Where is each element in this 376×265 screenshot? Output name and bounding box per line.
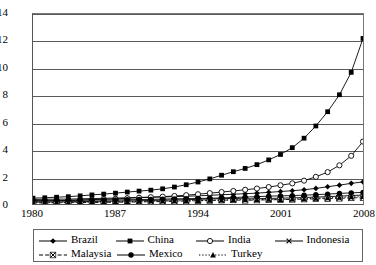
x-tick-label: 1987: [95, 207, 135, 219]
legend-label: China: [145, 233, 174, 245]
legend-label: Indonesia: [304, 233, 350, 245]
legend-item-indonesia[interactable]: Indonesia: [274, 232, 358, 246]
x-tick-label: 1980: [12, 207, 52, 219]
legend-marker-circle-icon: [116, 247, 146, 259]
x-tick-label: 1994: [178, 207, 218, 219]
y-tick-label: 8: [0, 89, 8, 100]
x-tick-label: 2001: [261, 207, 301, 219]
legend-row: BrazilChinaIndiaIndonesia: [38, 232, 358, 246]
legend-item-mexico[interactable]: Mexico: [116, 246, 198, 260]
legend-marker-triangle-icon: [198, 247, 228, 259]
y-tick-label: 2: [0, 172, 8, 183]
legend-label: Brazil: [68, 233, 98, 245]
x-tick-label: 2008: [344, 207, 376, 219]
legend-marker-square-icon: [115, 233, 145, 245]
y-tick-label: 10: [0, 62, 8, 73]
legend-marker-cross-icon: [274, 233, 304, 245]
legend-marker-diamond-icon: [38, 233, 68, 245]
y-tick-label: 6: [0, 117, 8, 128]
chart-figure: 02468101214 19801987199420012008 BrazilC…: [0, 0, 376, 265]
legend-label: India: [225, 233, 251, 245]
y-tick-label: 4: [0, 144, 8, 155]
legend-item-malaysia[interactable]: Malaysia: [38, 246, 116, 260]
legend-item-turkey[interactable]: Turkey: [198, 246, 278, 260]
chart-legend: BrazilChinaIndiaIndonesia MalaysiaMexico…: [33, 229, 363, 262]
legend-label: Mexico: [146, 247, 183, 259]
y-tick-label: 0: [0, 199, 8, 210]
y-tick-label: 14: [0, 7, 8, 18]
series-line-china: [33, 38, 363, 198]
plot-area: [32, 13, 364, 205]
legend-marker-cross-box-icon: [38, 247, 68, 259]
legend-item-brazil[interactable]: Brazil: [38, 232, 115, 246]
legend-label: Malaysia: [68, 247, 111, 259]
legend-item-india[interactable]: India: [195, 232, 274, 246]
legend-label: Turkey: [228, 247, 262, 259]
legend-marker-circle-open-icon: [195, 233, 225, 245]
y-tick-label: 12: [0, 34, 8, 45]
legend-row: MalaysiaMexicoTurkey: [38, 246, 358, 260]
series-layer: [33, 14, 363, 204]
legend-item-china[interactable]: China: [115, 232, 195, 246]
